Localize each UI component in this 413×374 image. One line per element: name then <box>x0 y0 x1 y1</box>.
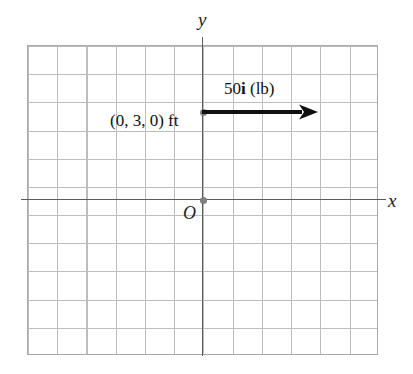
force-magnitude: 50 <box>224 79 241 98</box>
position-coordinate-label: (0, 3, 0) ft <box>110 112 178 129</box>
origin-label: O <box>183 204 196 222</box>
force-vector-label: 50i (lb) <box>224 80 275 97</box>
origin-dot <box>200 197 207 204</box>
coordinate-diagram: y x O (0, 3, 0) ft 50i (lb) <box>0 0 413 374</box>
force-vector-arrow <box>201 102 321 122</box>
force-units: (lb) <box>246 79 275 98</box>
x-axis-label: x <box>388 191 396 210</box>
y-axis-label: y <box>198 10 206 29</box>
